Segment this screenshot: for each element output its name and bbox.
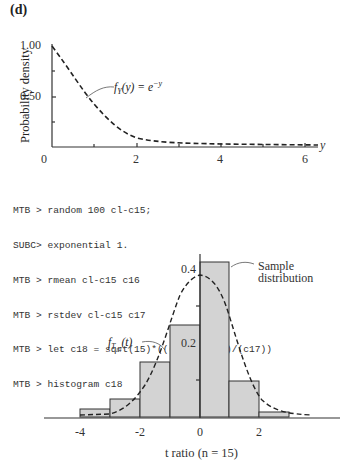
curve-pointer: [86, 87, 114, 98]
t-curve-label: fT14(t): [108, 336, 132, 353]
xtick-neg4: -4: [75, 425, 85, 440]
xtick-2: 2: [133, 152, 139, 167]
ytick-0-2: 0.2: [181, 336, 196, 351]
code-line: MTB > let c18 = sqrt(15)*(((c16 - 1.0)/(…: [13, 344, 272, 356]
sample-distribution-label: Sample distribution: [258, 260, 313, 284]
curve-label: fY(y) = e−y: [114, 79, 162, 96]
ytick-0-4: 0.4: [181, 262, 196, 277]
xtick-4: 4: [217, 152, 223, 167]
xtick-6: 6: [302, 152, 308, 167]
code-line: MTB > rstdev cl-c15 c17: [13, 310, 272, 322]
histogram-bar: [259, 412, 289, 417]
minitab-code: MTB > random 100 cl-c15; SUBC> exponenti…: [13, 182, 272, 402]
code-line: SUBC> exponential 1.: [13, 240, 272, 252]
y-axis-label: Probability density: [18, 41, 33, 151]
xtick-2: 2: [256, 425, 262, 440]
xtick-0: 0: [41, 152, 47, 167]
x-axis-label: y: [320, 138, 325, 153]
histogram-bar: [80, 409, 110, 417]
exponential-curve: [52, 46, 318, 145]
code-line: MTB > random 100 cl-c15;: [13, 205, 272, 217]
x-axis-label: t ratio (n = 15): [165, 446, 238, 461]
code-line: MTB > rmean cl-c15 c16: [13, 275, 272, 287]
code-line: MTB > histogram c18: [13, 379, 272, 391]
xtick-neg2: -2: [135, 425, 145, 440]
xtick-0: 0: [197, 425, 203, 440]
exponential-density-chart: [0, 0, 350, 180]
annotation-line: distribution: [258, 272, 313, 284]
